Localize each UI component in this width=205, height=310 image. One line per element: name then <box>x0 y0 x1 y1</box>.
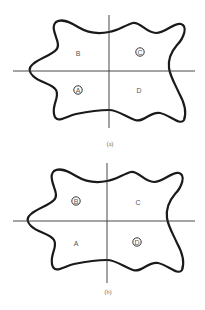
label-a-a: A <box>76 87 81 94</box>
panel-a: B C A D (a) <box>13 15 195 148</box>
panel-b: B C A D (b) <box>13 163 195 296</box>
label-d-b: D <box>134 239 139 246</box>
caption-a: (a) <box>107 141 114 148</box>
label-d-a: D <box>136 87 141 94</box>
label-a-b: A <box>74 240 79 247</box>
label-c-b: C <box>135 199 140 206</box>
label-b-a: B <box>76 50 81 57</box>
label-b-b: B <box>74 198 79 205</box>
caption-b: (b) <box>105 289 112 296</box>
figure-canvas: B C A D (a) B C A D (b) <box>0 0 205 310</box>
label-c-a: C <box>137 49 142 56</box>
